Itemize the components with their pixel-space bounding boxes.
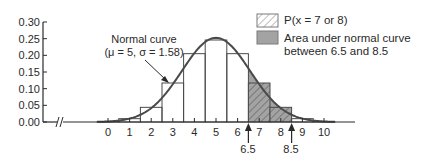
x-tick-label: 7 xyxy=(256,126,262,138)
y-tick-label: 0.15 xyxy=(19,66,40,78)
x-tick-label: 5 xyxy=(213,126,219,138)
x-tick-label: 0 xyxy=(105,126,111,138)
legend-hatched-text: P(x = 7 or 8) xyxy=(284,14,348,26)
bar-7 xyxy=(248,83,270,122)
legend-item-hatched-label: P(x = 7 or 8) xyxy=(284,14,348,27)
legend-shaded-line2: between 6.5 and 8.5 xyxy=(284,45,411,58)
chart-canvas: 0.000.050.100.150.200.250.30012345678910 xyxy=(0,0,421,163)
y-tick-label: 0.10 xyxy=(19,83,40,95)
x-tick-label: 1 xyxy=(127,126,133,138)
y-tick-label: 0.05 xyxy=(19,99,40,111)
curve-label-name: Normal curve xyxy=(88,33,200,46)
legend-swatch-shaded xyxy=(257,31,278,44)
bar-3 xyxy=(162,83,184,122)
legend-shaded-line1: Area under normal curve xyxy=(284,32,411,45)
legend-swatches xyxy=(257,14,278,44)
x-tick-label: 10 xyxy=(318,126,330,138)
x-tick-label: 9 xyxy=(299,126,305,138)
curve-pointer-line xyxy=(145,60,166,80)
x-tick-label: 4 xyxy=(191,126,197,138)
legend-swatch-hatched xyxy=(257,14,278,27)
bar-5 xyxy=(205,40,227,122)
y-tick-label: 0.25 xyxy=(19,33,40,45)
arrow-head-8.5 xyxy=(288,123,295,131)
curve-label-params: (μ = 5, σ = 1.58) xyxy=(88,46,200,59)
legend-item-shaded-label: Area under normal curve between 6.5 and … xyxy=(284,32,411,58)
x-tick-label: 2 xyxy=(148,126,154,138)
arrow-head-6.5 xyxy=(245,123,252,131)
boundary-arrows xyxy=(245,123,295,143)
x-tick-label: 3 xyxy=(170,126,176,138)
y-tick-label: 0.00 xyxy=(19,116,40,128)
y-tick-label: 0.20 xyxy=(19,49,40,61)
x-tick-label: 6 xyxy=(235,126,241,138)
arrow-label-8-5: 8.5 xyxy=(277,143,305,156)
axis-break-mark-2 xyxy=(60,117,63,127)
x-tick-label: 8 xyxy=(278,126,284,138)
arrow-label-6-5: 6.5 xyxy=(234,143,262,156)
curve-label: Normal curve (μ = 5, σ = 1.58) xyxy=(88,33,200,59)
y-tick-label: 0.30 xyxy=(19,16,40,28)
